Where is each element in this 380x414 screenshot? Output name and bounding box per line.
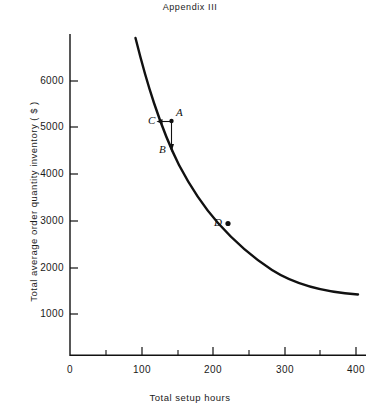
x-tick-label-200: 200: [193, 364, 233, 375]
chart-canvas: [0, 0, 380, 414]
point-label-b: B: [159, 143, 166, 155]
x-axis-title: Total setup hours: [0, 392, 380, 403]
x-tick-label-400: 400: [336, 364, 376, 375]
y-axis-ticks: [70, 81, 78, 314]
y-tick-label-5000: 5000: [18, 121, 64, 132]
point-label-a: A: [176, 106, 183, 118]
figure-appendix-iii: Appendix III: [0, 0, 380, 414]
y-tick-label-3000: 3000: [18, 215, 64, 226]
data-point-a-marker: [169, 119, 173, 123]
x-tick-label-300: 300: [265, 364, 305, 375]
point-label-c: C: [148, 114, 155, 126]
data-curve: [136, 38, 359, 295]
y-tick-label-4000: 4000: [18, 168, 64, 179]
y-tick-label-6000: 6000: [18, 75, 64, 86]
point-label-d: D: [214, 216, 222, 228]
y-tick-label-1000: 1000: [18, 308, 64, 319]
y-tick-label-2000: 2000: [18, 262, 64, 273]
x-tick-label-100: 100: [122, 364, 162, 375]
data-point-d-marker: [225, 221, 230, 226]
y-axis-title: Total average order quantity inventory (…: [28, 72, 39, 332]
x-tick-label-0: 0: [50, 364, 90, 375]
